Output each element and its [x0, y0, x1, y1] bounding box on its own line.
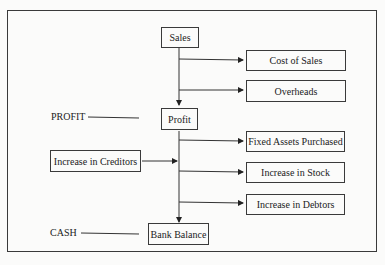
node-sales: Sales	[161, 27, 199, 48]
node-fixed-assets-purchased: Fixed Assets Purchased	[246, 131, 345, 152]
node-overheads-label: Overheads	[275, 86, 318, 97]
node-cost-of-sales: Cost of Sales	[246, 50, 346, 71]
node-bank-balance: Bank Balance	[148, 223, 209, 245]
node-increase-in-creditors: Increase in Creditors	[50, 150, 141, 172]
node-increase-stock-label: Increase in Stock	[261, 167, 330, 178]
node-profit-label: Profit	[168, 114, 191, 125]
node-profit: Profit	[161, 108, 198, 130]
node-fixed-assets-label: Fixed Assets Purchased	[248, 136, 342, 147]
side-label-cash: CASH	[50, 227, 77, 238]
node-overheads: Overheads	[246, 80, 346, 102]
node-bank-balance-label: Bank Balance	[151, 229, 207, 240]
side-label-profit: PROFIT	[51, 111, 85, 122]
node-increase-in-debtors: Increase in Debtors	[246, 194, 345, 215]
node-increase-debtors-label: Increase in Debtors	[257, 199, 335, 210]
node-increase-creditors-label: Increase in Creditors	[54, 156, 137, 167]
node-sales-label: Sales	[169, 32, 190, 43]
node-cost-of-sales-label: Cost of Sales	[270, 55, 323, 66]
node-increase-in-stock: Increase in Stock	[246, 162, 345, 183]
